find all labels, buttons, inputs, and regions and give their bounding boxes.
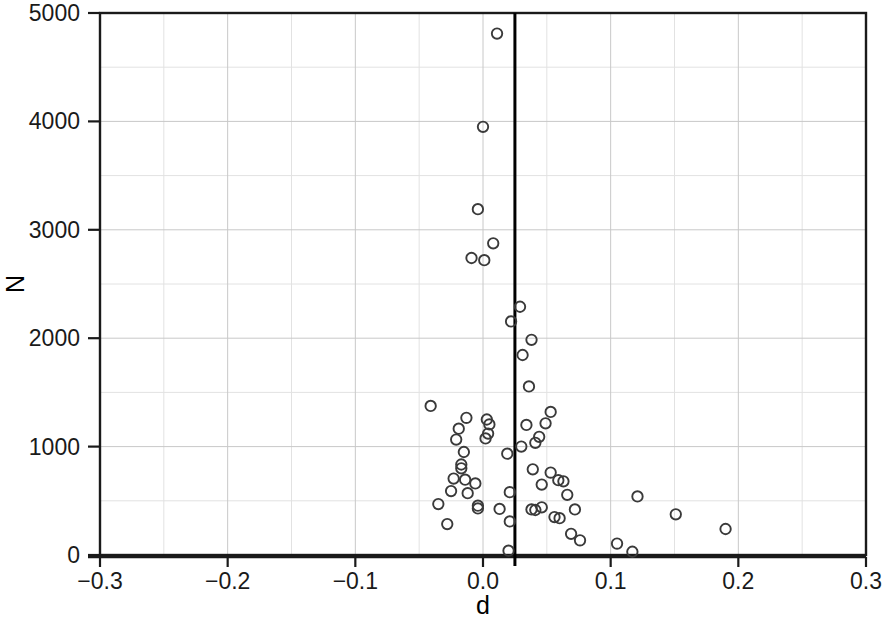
y-tick-label: 1000	[29, 434, 80, 460]
y-axis-label: N	[1, 275, 29, 293]
x-tick-label: −0.2	[205, 568, 250, 594]
scatter-plot-figure: −0.3−0.2−0.10.00.10.20.3 010002000300040…	[0, 0, 889, 624]
x-tick-label: −0.1	[333, 568, 378, 594]
y-tick-label: 2000	[29, 325, 80, 351]
y-tick-label: 5000	[29, 0, 80, 26]
x-tick-label: 0.1	[595, 568, 627, 594]
x-tick-label: −0.3	[77, 568, 122, 594]
x-tick-label: 0.2	[722, 568, 754, 594]
x-axis-label: d	[476, 591, 490, 619]
y-tick-label: 0	[67, 542, 80, 568]
figure-background	[0, 0, 889, 624]
y-tick-label: 4000	[29, 108, 80, 134]
y-tick-label: 3000	[29, 217, 80, 243]
x-tick-label: 0.3	[850, 568, 882, 594]
